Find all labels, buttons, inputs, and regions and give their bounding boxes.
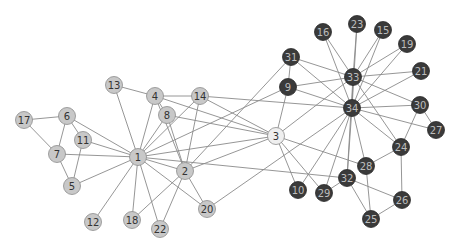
node-30: 30 (412, 97, 429, 114)
node-label: 10 (292, 185, 305, 196)
node-6: 6 (59, 108, 76, 125)
node-label: 30 (414, 100, 427, 111)
node-label: 31 (285, 52, 298, 63)
node-13: 13 (106, 77, 123, 94)
node-label: 28 (360, 161, 373, 172)
edge-31-34 (291, 57, 352, 108)
node-28: 28 (358, 158, 375, 175)
edge-2-31 (185, 57, 291, 171)
node-11: 11 (75, 132, 92, 149)
node-31: 31 (283, 49, 300, 66)
edge-1-3 (138, 136, 276, 157)
node-18: 18 (124, 212, 141, 229)
node-label: 5 (69, 181, 75, 192)
node-label: 16 (317, 27, 330, 38)
node-label: 7 (54, 149, 60, 160)
nodes-layer: 1234567891011121314151617181920212223242… (16, 16, 445, 238)
node-label: 22 (154, 224, 167, 235)
node-label: 8 (164, 110, 170, 121)
node-label: 4 (152, 91, 158, 102)
edge-14-34 (200, 96, 352, 108)
node-label: 15 (377, 25, 390, 36)
node-label: 32 (341, 173, 354, 184)
node-24: 24 (393, 139, 410, 156)
edge-2-22 (160, 171, 185, 229)
node-label: 29 (318, 188, 331, 199)
node-21: 21 (413, 63, 430, 80)
node-14: 14 (192, 88, 209, 105)
node-4: 4 (147, 88, 164, 105)
node-label: 6 (64, 111, 70, 122)
node-12: 12 (85, 214, 102, 231)
node-3: 3 (268, 128, 285, 145)
edge-31-33 (291, 57, 353, 77)
node-17: 17 (16, 112, 33, 129)
edge-1-7 (57, 154, 138, 157)
node-label: 3 (273, 131, 279, 142)
node-29: 29 (316, 185, 333, 202)
edge-2-3 (185, 136, 276, 171)
node-25: 25 (363, 211, 380, 228)
edge-30-34 (352, 105, 420, 108)
edge-19-33 (353, 44, 407, 77)
edge-1-18 (132, 157, 138, 220)
node-20: 20 (199, 201, 216, 218)
node-label: 2 (182, 166, 188, 177)
node-33: 33 (345, 69, 362, 86)
node-label: 25 (365, 214, 378, 225)
node-label: 24 (395, 142, 408, 153)
edge-32-34 (347, 108, 352, 178)
edges-layer (24, 24, 436, 229)
node-label: 19 (401, 39, 414, 50)
edge-2-18 (132, 171, 185, 220)
node-15: 15 (375, 22, 392, 39)
node-label: 27 (430, 125, 443, 136)
edge-1-22 (138, 157, 160, 229)
node-label: 33 (347, 72, 360, 83)
edge-1-4 (138, 96, 155, 157)
node-label: 14 (194, 91, 207, 102)
node-10: 10 (290, 182, 307, 199)
edge-3-14 (200, 96, 276, 136)
edge-9-34 (288, 87, 352, 108)
node-26: 26 (394, 192, 411, 209)
node-label: 26 (396, 195, 409, 206)
node-2: 2 (177, 163, 194, 180)
node-5: 5 (64, 178, 81, 195)
node-label: 13 (108, 80, 121, 91)
network-diagram: 1234567891011121314151617181920212223242… (0, 0, 456, 251)
node-34: 34 (344, 100, 361, 117)
node-23: 23 (349, 16, 366, 33)
node-label: 34 (346, 103, 359, 114)
node-16: 16 (315, 24, 332, 41)
node-8: 8 (159, 107, 176, 124)
node-label: 23 (351, 19, 364, 30)
node-27: 27 (428, 122, 445, 139)
node-label: 9 (285, 82, 291, 93)
node-label: 17 (18, 115, 31, 126)
edge-1-14 (138, 96, 200, 157)
node-label: 1 (135, 152, 141, 163)
edge-1-32 (138, 157, 347, 178)
node-19: 19 (399, 36, 416, 53)
node-label: 21 (415, 66, 428, 77)
node-7: 7 (49, 146, 66, 163)
edge-2-14 (185, 96, 200, 171)
node-32: 32 (339, 170, 356, 187)
graph-svg: 1234567891011121314151617181920212223242… (0, 0, 456, 251)
edge-28-34 (352, 108, 366, 166)
node-22: 22 (152, 221, 169, 238)
node-label: 11 (77, 135, 90, 146)
edge-1-13 (114, 85, 138, 157)
node-label: 20 (201, 204, 214, 215)
node-label: 18 (126, 215, 139, 226)
node-label: 12 (87, 217, 100, 228)
node-9: 9 (280, 79, 297, 96)
node-1: 1 (130, 149, 147, 166)
